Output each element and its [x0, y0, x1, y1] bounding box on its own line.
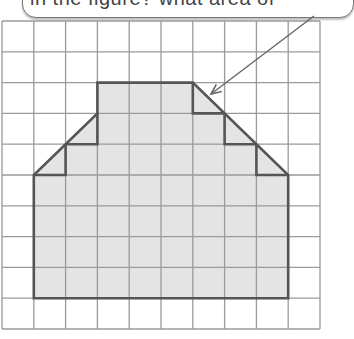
grid-figure: [0, 0, 334, 339]
